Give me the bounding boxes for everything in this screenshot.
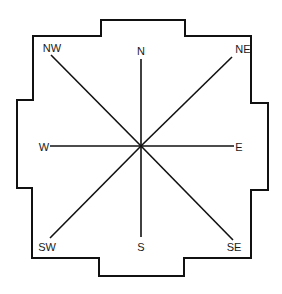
label-s: S	[137, 241, 144, 253]
compass-diagram: NNEESESSWWNW	[0, 0, 282, 294]
spoke-sw	[50, 146, 141, 238]
spoke-nw	[51, 55, 141, 146]
label-ne: NE	[235, 43, 250, 55]
spoke-ne	[141, 57, 232, 146]
label-n: N	[137, 45, 145, 57]
spoke-se	[141, 146, 233, 240]
compass-spokes	[50, 55, 234, 240]
label-se: SE	[227, 241, 242, 253]
compass-canvas: NNEESESSWWNW	[0, 0, 282, 294]
label-w: W	[39, 141, 50, 153]
label-e: E	[235, 141, 242, 153]
label-sw: SW	[38, 241, 56, 253]
label-nw: NW	[43, 42, 62, 54]
